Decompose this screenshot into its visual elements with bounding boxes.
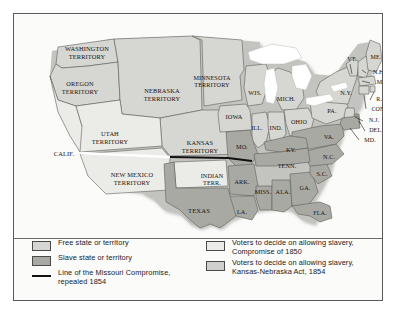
legend-swatch [206, 241, 225, 251]
legend-missouri-compromise-line: Line of the Missouri Compromise, repeale… [32, 269, 212, 286]
leader-rhode-island [370, 92, 374, 100]
legend-kansas-nebraska-act: Voters to decide on allowing slavery, Ka… [206, 259, 382, 276]
legend-column-right: Voters to decide on allowing slavery, Co… [206, 239, 382, 279]
legend-slave-state: Slave state or territory [32, 254, 212, 266]
legend-free-state: Free state or territory [32, 239, 212, 251]
figure-frame: WASHINGTON TERRITORYOREGON TERRITORYUTAH… [13, 13, 383, 301]
state-arkansas [228, 164, 258, 196]
legend-rule-line [32, 275, 51, 277]
territory-indian [174, 160, 228, 188]
legend-rule-marker [32, 271, 51, 281]
map-figure: WASHINGTON TERRITORYOREGON TERRITORYUTAH… [0, 0, 405, 318]
state-maine [366, 40, 382, 72]
legend-label: Voters to decide on allowing slavery, Co… [232, 239, 354, 256]
legend-label: Slave state or territory [58, 254, 132, 263]
legend-column-left: Free state or territorySlave state or te… [32, 239, 212, 289]
legend-compromise-1850: Voters to decide on allowing slavery, Co… [206, 239, 382, 256]
us-map-svg [14, 14, 382, 238]
state-iowa [218, 104, 252, 132]
state-connecticut [359, 86, 369, 94]
legend-label: Line of the Missouri Compromise, repeale… [58, 269, 170, 286]
legend-swatch [32, 256, 51, 266]
map-canvas: WASHINGTON TERRITORYOREGON TERRITORYUTAH… [14, 14, 382, 238]
map-legend: Free state or territorySlave state or te… [14, 239, 382, 301]
leader-maryland [350, 128, 359, 140]
state-oregon-territory [50, 62, 120, 106]
state-alabama [272, 180, 292, 212]
legend-label: Free state or territory [58, 239, 129, 248]
state-massachusetts [358, 76, 376, 86]
state-nebraska-territory [114, 36, 202, 118]
legend-label: Voters to decide on allowing slavery, Ka… [232, 259, 354, 276]
legend-swatch [32, 241, 51, 251]
leader-connecticut [364, 95, 366, 109]
legend-swatch [206, 261, 225, 271]
state-rhode-island [370, 86, 375, 92]
